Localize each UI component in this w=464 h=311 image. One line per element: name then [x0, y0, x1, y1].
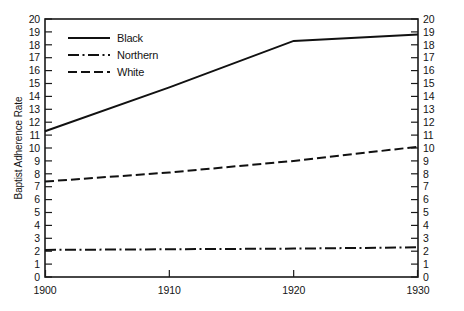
y-tick-label-left: 0 [34, 271, 40, 283]
y-tick-label-right: 16 [423, 64, 435, 76]
y-tick-label-left: 7 [34, 180, 40, 192]
chart-figure: 01234567891011121314151617181920 0123456… [0, 0, 464, 311]
y-tick-label-left: 1 [34, 258, 40, 270]
y-tick-label-right: 6 [423, 193, 429, 205]
y-tick-label-right: 14 [423, 90, 435, 102]
series-line-black [45, 34, 418, 131]
y-tick-label-left: 9 [34, 155, 40, 167]
legend-label-white: White [117, 66, 144, 78]
y-tick-label-left: 10 [29, 142, 41, 154]
y-tick-label-right: 19 [423, 26, 435, 38]
legend-label-black: Black [117, 32, 144, 44]
legend-label-northern: Northern [117, 49, 158, 61]
y-tick-label-right: 4 [423, 219, 429, 231]
x-tick-label: 1910 [158, 284, 181, 296]
y-tick-label-right: 12 [423, 116, 435, 128]
line-chart: 01234567891011121314151617181920 0123456… [0, 0, 464, 311]
y-tick-label-right: 7 [423, 180, 429, 192]
y-tick-label-left: 6 [34, 193, 40, 205]
y-tick-label-left: 2 [34, 245, 40, 257]
y-axis-left-ticks [45, 19, 52, 277]
y-tick-label-right: 17 [423, 51, 435, 63]
y-tick-label-left: 13 [29, 103, 41, 115]
y-tick-label-left: 17 [29, 51, 41, 63]
x-tick-label: 1930 [407, 284, 430, 296]
y-tick-label-left: 4 [34, 219, 40, 231]
y-tick-label-right: 11 [423, 129, 434, 141]
y-tick-label-right: 3 [423, 232, 429, 244]
y-tick-label-left: 12 [29, 116, 41, 128]
y-tick-label-right: 20 [423, 13, 435, 25]
y-tick-label-left: 18 [29, 39, 41, 51]
x-axis-labels: 1900191019201930 [34, 284, 430, 296]
y-axis-title: Baptist Adherence Rate [13, 96, 24, 199]
y-axis-right-labels: 01234567891011121314151617181920 [423, 13, 435, 283]
y-tick-label-right: 18 [423, 39, 435, 51]
y-tick-label-left: 19 [29, 26, 41, 38]
y-tick-label-left: 8 [34, 168, 40, 180]
y-tick-label-left: 5 [34, 206, 40, 218]
y-tick-label-right: 10 [423, 142, 435, 154]
x-tick-label: 1900 [34, 284, 57, 296]
series-line-white [45, 147, 418, 182]
y-tick-label-left: 16 [29, 64, 41, 76]
x-axis-ticks [46, 270, 418, 277]
x-tick-label: 1920 [282, 284, 305, 296]
y-axis-left-labels: 01234567891011121314151617181920 [29, 13, 41, 283]
y-tick-label-left: 15 [29, 77, 41, 89]
y-tick-label-right: 1 [423, 258, 429, 270]
y-tick-label-left: 20 [29, 13, 41, 25]
chart-legend: BlackNorthernWhite [68, 32, 158, 78]
y-tick-label-left: 3 [34, 232, 40, 244]
y-tick-label-left: 11 [30, 129, 41, 141]
y-tick-label-right: 5 [423, 206, 429, 218]
y-tick-label-right: 8 [423, 168, 429, 180]
y-tick-label-right: 2 [423, 245, 429, 257]
y-tick-label-right: 0 [423, 271, 429, 283]
y-tick-label-right: 9 [423, 155, 429, 167]
y-tick-label-left: 14 [29, 90, 41, 102]
series-group [45, 34, 418, 249]
series-line-northern [45, 247, 418, 250]
y-tick-label-right: 15 [423, 77, 435, 89]
plot-frame [45, 19, 418, 277]
y-tick-label-right: 13 [423, 103, 435, 115]
